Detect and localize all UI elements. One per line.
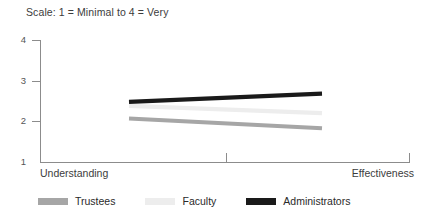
y-axis-tick-label: 4 xyxy=(10,34,26,45)
y-axis-tick-label: 1 xyxy=(10,156,26,167)
series-group xyxy=(129,94,322,129)
y-axis-tick-label: 2 xyxy=(10,115,26,126)
legend-item[interactable]: Administrators xyxy=(246,195,350,207)
legend-swatch xyxy=(145,198,175,205)
legend-item[interactable]: Trustees xyxy=(38,195,115,207)
series-line xyxy=(129,118,322,128)
series-line xyxy=(129,94,322,102)
x-axis-label-left: Understanding xyxy=(40,167,108,179)
legend-swatch xyxy=(246,198,276,205)
legend-label: Faculty xyxy=(182,195,216,207)
legend-item[interactable]: Faculty xyxy=(145,195,216,207)
legend-label: Trustees xyxy=(75,195,115,207)
legend-swatch xyxy=(38,198,68,205)
axes-group xyxy=(32,40,410,163)
x-axis-label-right: Effectiveness xyxy=(352,167,414,179)
chart-legend: TrusteesFacultyAdministrators xyxy=(38,195,380,207)
series-line xyxy=(129,106,322,113)
y-axis-tick-label: 3 xyxy=(10,75,26,86)
legend-label: Administrators xyxy=(283,195,350,207)
chart-plot-area xyxy=(0,0,428,217)
chart-container: Scale: 1 = Minimal to 4 = Very 4321 Unde… xyxy=(0,0,428,217)
